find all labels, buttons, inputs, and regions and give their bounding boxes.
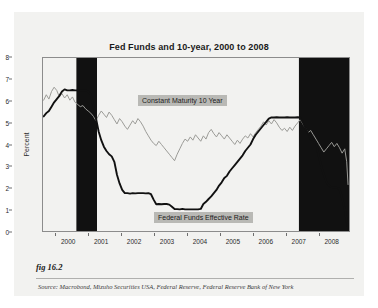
- x-tick-mark: [286, 233, 287, 236]
- recession-band-2000-2001: [76, 58, 97, 231]
- y-axis-title: Percent: [20, 57, 32, 232]
- y-tick-mark: [9, 57, 12, 58]
- series-label-fed-funds: Federal Funds Effective Rate: [154, 212, 253, 223]
- y-tick-mark: [9, 122, 12, 123]
- y-tick-mark: [9, 210, 12, 211]
- series-label-ten-year: Constant Maturity 10 Year: [138, 95, 227, 106]
- figure-source-line: Source: Macrobond, Mizuho Securities USA…: [38, 283, 360, 290]
- x-tick-mark: [154, 233, 155, 236]
- x-tick-label: 2000: [61, 238, 75, 245]
- y-axis-title-text: Percent: [23, 132, 30, 156]
- x-tick-mark: [253, 233, 254, 236]
- recession-band-2007-2008: [299, 58, 349, 231]
- y-tick-mark: [9, 144, 12, 145]
- x-tick-mark: [88, 233, 89, 236]
- x-tick-label: 2005: [226, 238, 240, 245]
- x-tick-mark: [220, 233, 221, 236]
- x-tick-label: 2008: [324, 238, 338, 245]
- y-tick-mark: [9, 166, 12, 167]
- y-tick-mark: [9, 232, 12, 233]
- x-axis-tick-labels: 200020012002200320042005200620072008: [42, 233, 350, 249]
- x-tick-label: 2002: [127, 238, 141, 245]
- x-tick-label: 2001: [94, 238, 108, 245]
- x-tick-label: 2003: [160, 238, 174, 245]
- x-tick-mark: [319, 233, 320, 236]
- x-tick-mark: [55, 233, 56, 236]
- chart-canvas: [43, 58, 349, 231]
- chart-title: Fed Funds and 10-year, 2000 to 2008: [14, 42, 364, 52]
- plot-area: Constant Maturity 10 Year Federal Funds …: [42, 57, 350, 232]
- figure-caption-label: fig 16.2: [36, 262, 62, 272]
- figure-panel: Fed Funds and 10-year, 2000 to 2008 Perc…: [14, 12, 364, 296]
- figure-root: Fed Funds and 10-year, 2000 to 2008 Perc…: [0, 0, 378, 308]
- caption-divider: [36, 278, 354, 279]
- y-tick-mark: [9, 100, 12, 101]
- x-tick-label: 2004: [193, 238, 207, 245]
- y-tick-mark: [9, 78, 12, 79]
- x-tick-label: 2007: [292, 238, 306, 245]
- x-tick-mark: [187, 233, 188, 236]
- plot-frame: [42, 57, 350, 232]
- x-tick-mark: [121, 233, 122, 236]
- y-tick-mark: [9, 188, 12, 189]
- y-axis-tick-labels: 012345678: [0, 57, 12, 232]
- x-tick-label: 2006: [259, 238, 273, 245]
